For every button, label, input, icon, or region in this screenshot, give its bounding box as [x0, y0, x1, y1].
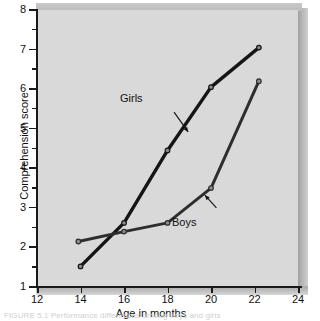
x-tick-label: 22	[242, 294, 268, 305]
plot-area	[37, 10, 298, 287]
series-line-boys	[78, 81, 259, 241]
data-point-marker	[165, 148, 170, 153]
x-tick-label: 16	[111, 294, 137, 305]
y-tick-major	[29, 286, 37, 288]
annotation-arrow-boys	[205, 195, 217, 208]
plate-right-bevel	[297, 8, 308, 290]
y-tick-major	[29, 167, 37, 169]
figure-container: 1234567812141618202224 Girls Boys Age in…	[0, 0, 320, 321]
y-tick-major	[29, 207, 37, 209]
data-point-marker	[165, 221, 170, 226]
y-tick-major	[29, 9, 37, 11]
data-point-marker	[122, 221, 127, 226]
y-tick-major	[29, 128, 37, 130]
data-point-marker	[257, 45, 262, 50]
data-point-marker	[209, 85, 214, 90]
x-tick-label: 12	[24, 294, 50, 305]
data-point-marker	[78, 264, 83, 269]
x-tick-label: 14	[68, 294, 94, 305]
y-tick-major	[29, 88, 37, 90]
y-tick-label: 2	[8, 241, 26, 252]
y-tick-label: 7	[8, 44, 26, 55]
series-line-girls	[81, 48, 259, 267]
x-tick-label: 18	[155, 294, 181, 305]
y-tick-major	[29, 246, 37, 248]
y-tick-major	[29, 49, 37, 51]
x-tick-label: 20	[198, 294, 224, 305]
data-point-marker	[209, 186, 214, 191]
series-canvas	[37, 10, 298, 287]
data-point-marker	[122, 229, 127, 234]
y-axis-title: Comprehension score	[18, 66, 30, 226]
data-point-marker	[76, 239, 81, 244]
series-label-boys: Boys	[172, 216, 196, 228]
y-tick-label: 1	[8, 281, 26, 292]
y-tick-label: 8	[8, 4, 26, 15]
series-label-girls: Girls	[120, 92, 143, 104]
data-point-marker	[257, 79, 262, 84]
x-tick-label: 24	[285, 294, 311, 305]
figure-caption: FIGURE 5.1 Performance differences among…	[4, 311, 316, 321]
